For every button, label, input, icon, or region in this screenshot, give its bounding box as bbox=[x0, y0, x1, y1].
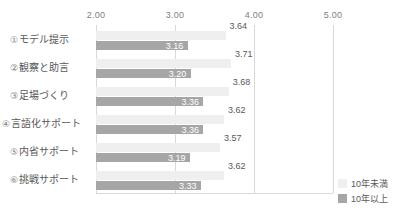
bar-value-label: 3.71 bbox=[235, 50, 253, 59]
category-label-2: ②観察と助言 bbox=[10, 62, 102, 74]
category-label-6: ⑥挑戦サポート bbox=[10, 174, 102, 186]
bar bbox=[96, 59, 231, 68]
bar-chart: 2.003.004.005.00 3.643.163.713.203.683.3… bbox=[0, 0, 407, 224]
x-tick-4.00: 4.00 bbox=[245, 10, 263, 20]
bar bbox=[96, 87, 229, 96]
bar-value-label: 3.16 bbox=[166, 42, 184, 51]
bar-value-label: 3.62 bbox=[228, 162, 246, 171]
x-tick-3.00: 3.00 bbox=[166, 10, 184, 20]
legend-item-2[interactable]: 10年以上 bbox=[338, 191, 407, 206]
plot-area: 3.643.163.713.203.683.363.623.363.573.19… bbox=[96, 25, 333, 193]
x-axis-baseline bbox=[96, 193, 333, 194]
gridline-2.00 bbox=[96, 25, 97, 193]
legend-item-1[interactable]: 10年未満 bbox=[338, 176, 407, 191]
x-tick-2.00: 2.00 bbox=[87, 10, 105, 20]
bar bbox=[96, 171, 224, 180]
bar-value-label: 3.36 bbox=[181, 126, 199, 135]
bar-value-label: 3.36 bbox=[181, 98, 199, 107]
category-name: 挑戦サポート bbox=[19, 174, 79, 185]
category-name: 内省サポート bbox=[19, 146, 79, 157]
category-number: ③ bbox=[10, 90, 18, 102]
bar-value-label: 3.62 bbox=[228, 106, 246, 115]
category-number: ④ bbox=[2, 118, 10, 130]
bar-value-label: 3.64 bbox=[230, 22, 248, 31]
category-number: ② bbox=[10, 62, 18, 74]
legend-swatch-icon bbox=[338, 194, 347, 203]
category-number: ⑥ bbox=[10, 174, 18, 186]
category-name: 言語化サポート bbox=[11, 118, 81, 129]
x-tick-5.00: 5.00 bbox=[324, 10, 342, 20]
category-number: ⑤ bbox=[10, 146, 18, 158]
legend-label: 10年未満 bbox=[351, 177, 388, 190]
gridline-4.00 bbox=[254, 25, 255, 193]
category-name: モデル提示 bbox=[19, 34, 69, 45]
legend-label: 10年以上 bbox=[351, 192, 388, 205]
category-number: ① bbox=[10, 34, 18, 46]
bar-value-label: 3.20 bbox=[169, 70, 187, 79]
bar-value-label: 3.57 bbox=[224, 134, 242, 143]
bar bbox=[96, 31, 226, 40]
x-axis-tick-labels: 2.003.004.005.00 bbox=[0, 10, 407, 24]
category-label-1: ①モデル提示 bbox=[10, 34, 102, 46]
bar bbox=[96, 143, 220, 152]
category-name: 観察と助言 bbox=[19, 62, 69, 73]
category-label-4: ④言語化サポート bbox=[2, 118, 94, 130]
bar-value-label: 3.68 bbox=[233, 78, 251, 87]
category-label-3: ③足場づくり bbox=[10, 90, 102, 102]
legend-swatch-icon bbox=[338, 179, 347, 188]
chart-legend: 10年未満10年以上 bbox=[338, 176, 407, 206]
bar-value-label: 3.19 bbox=[168, 154, 186, 163]
bar bbox=[96, 115, 224, 124]
category-name: 足場づくり bbox=[19, 90, 69, 101]
bar-value-label: 3.33 bbox=[179, 182, 197, 191]
category-label-5: ⑤内省サポート bbox=[10, 146, 102, 158]
gridline-5.00 bbox=[333, 25, 334, 193]
